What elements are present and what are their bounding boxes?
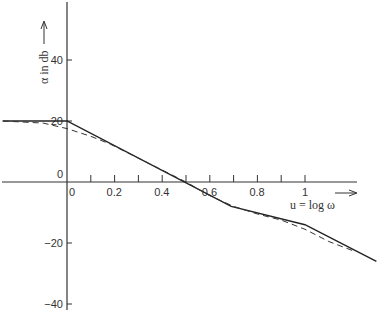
- y-tick-label: 0: [57, 168, 63, 180]
- y-tick-label: −40: [44, 298, 63, 310]
- y-axis-label: α in db: [37, 21, 51, 84]
- x-tick-label: 0.2: [107, 186, 122, 198]
- x-tick-labels: 00.20.40.60.81: [69, 186, 308, 198]
- bode-plot: 00.20.40.60.81 40200−20−40 u = log ω α i…: [0, 0, 383, 314]
- x-tick-label: 1: [302, 186, 308, 198]
- x-ticks: [91, 175, 305, 182]
- actual-curve: [3, 121, 353, 251]
- axes: [2, 2, 357, 310]
- x-tick-label: 0: [69, 186, 75, 198]
- y-tick-label: −20: [44, 237, 63, 249]
- x-tick-label: 0.8: [249, 186, 264, 198]
- x-tick-label: 0.4: [154, 186, 169, 198]
- x-axis-label-text: u = log ω: [290, 198, 335, 212]
- y-tick-label: 40: [51, 54, 63, 66]
- x-axis-label: u = log ω: [290, 190, 357, 212]
- y-axis-label-text: α in db: [37, 50, 51, 84]
